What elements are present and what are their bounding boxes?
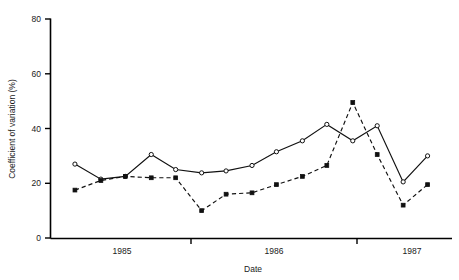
data-point	[351, 139, 355, 143]
line-chart-svg: 80 60 40 20 0 1985 1986 1987 Coefficient…	[0, 0, 459, 280]
data-point	[375, 153, 379, 157]
data-point	[99, 179, 103, 183]
data-point	[425, 154, 429, 158]
data-point	[250, 163, 254, 167]
data-point	[375, 124, 379, 128]
data-point	[274, 150, 278, 154]
y-axis-ticks	[45, 19, 51, 238]
y-tick-label-0: 0	[36, 233, 41, 243]
data-point	[73, 188, 77, 192]
data-point	[73, 162, 77, 166]
y-tick-label-60: 60	[32, 69, 42, 79]
data-point	[351, 101, 355, 105]
data-point	[174, 167, 178, 171]
data-point	[300, 175, 304, 179]
data-point	[224, 192, 228, 196]
series-line-1	[75, 124, 428, 181]
x-tick-label-1987: 1987	[403, 246, 422, 256]
y-tick-label-20: 20	[32, 178, 42, 188]
data-point	[250, 191, 254, 195]
y-tick-label-40: 40	[32, 124, 42, 134]
x-axis-tick-labels: 1985 1986 1987	[113, 246, 422, 256]
data-point	[325, 122, 329, 126]
x-axis-ticks	[191, 239, 357, 245]
y-axis-title: Coefficient of variation (%)	[7, 79, 17, 179]
series-layer	[73, 101, 430, 213]
x-axis-title: Date	[244, 264, 262, 274]
data-point	[200, 171, 204, 175]
y-tick-label-80: 80	[32, 14, 42, 24]
data-point	[149, 152, 153, 156]
data-point	[401, 203, 405, 207]
data-point	[123, 175, 127, 179]
y-axis-tick-labels: 80 60 40 20 0	[32, 14, 42, 243]
data-point	[200, 209, 204, 213]
data-point	[224, 169, 228, 173]
series-group-2	[73, 101, 429, 213]
data-point	[401, 180, 405, 184]
data-point	[174, 176, 178, 180]
data-point	[149, 176, 153, 180]
data-point	[275, 183, 279, 187]
x-tick-label-1986: 1986	[265, 246, 284, 256]
x-tick-label-1985: 1985	[113, 246, 132, 256]
data-point	[325, 164, 329, 168]
data-point	[426, 183, 430, 187]
data-point	[300, 139, 304, 143]
chart-figure: 80 60 40 20 0 1985 1986 1987 Coefficient…	[0, 0, 459, 280]
